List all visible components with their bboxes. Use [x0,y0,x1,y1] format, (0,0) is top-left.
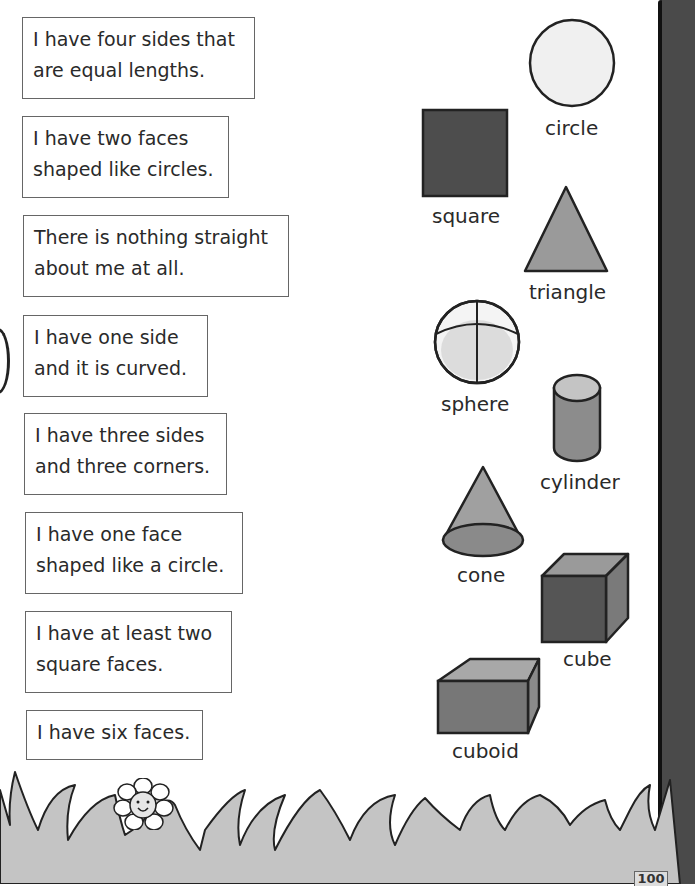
triangle-shape-icon[interactable] [522,184,610,274]
sphere-shape-icon[interactable] [432,298,522,386]
clue-box-two-circle-faces[interactable]: I have two faces shaped like circles. [22,116,229,198]
grass-border-decoration [0,770,695,884]
clue-box-three-sides[interactable]: I have three sides and three corners. [24,413,227,495]
cylinder-label: cylinder [540,470,620,494]
left-edge-decoration [0,328,10,394]
cone-shape-icon[interactable] [440,464,526,560]
cylinder-shape-icon[interactable] [551,372,603,464]
cuboid-shape-icon[interactable] [436,657,542,737]
circle-shape-icon[interactable] [527,17,617,109]
cube-shape-icon[interactable] [540,552,630,646]
page-number: 100 [634,871,668,886]
clue-box-nothing-straight[interactable]: There is nothing straight about me at al… [23,215,289,297]
clue-box-one-circle-face[interactable]: I have one face shaped like a circle. [25,512,243,594]
triangle-label: triangle [529,280,606,304]
clue-box-four-equal-sides[interactable]: I have four sides that are equal lengths… [22,17,255,99]
cone-label: cone [457,563,505,587]
clue-box-two-square-faces[interactable]: I have at least two square faces. [25,611,232,693]
clue-box-one-curved-side[interactable]: I have one side and it is curved. [23,315,208,397]
page-side-bar [662,0,695,884]
clue-box-six-faces[interactable]: I have six faces. [26,710,203,760]
sphere-label: sphere [441,392,509,416]
circle-label: circle [545,116,598,140]
cube-label: cube [563,647,612,671]
square-shape-icon[interactable] [421,108,509,198]
cuboid-label: cuboid [452,739,519,763]
square-label: square [432,204,500,228]
flower-icon [112,778,174,830]
